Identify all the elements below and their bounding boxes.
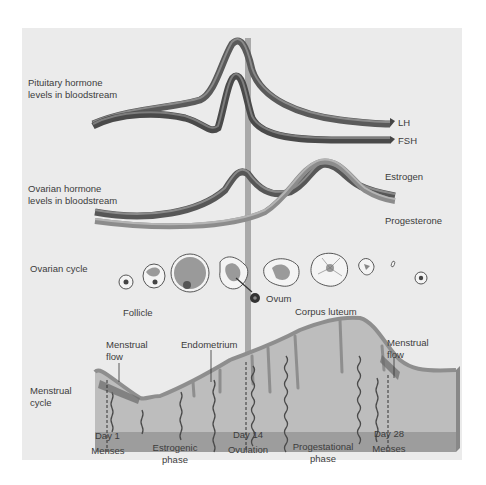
endometrium-label: Endometrium [181, 339, 238, 351]
menstrual-flow-right-line1: Menstrual [387, 337, 429, 349]
menstrual-flow-left-line2: flow [106, 351, 148, 363]
timeline-day1-line2: Menses [88, 445, 128, 457]
lh-label: LH [398, 117, 410, 129]
ovarian-hormone-label-line2: levels in bloodstream [28, 195, 117, 207]
progesterone-label: Progesterone [385, 215, 442, 227]
timeline-day28-line2: Menses [364, 443, 414, 455]
timeline-estrogenic-phase: Estrogenic phase [145, 442, 205, 465]
corpus-luteum-icon [311, 253, 348, 286]
timeline-day14-line2: Ovulation [218, 444, 278, 456]
menstrual-cycle-label-line1: Menstrual [30, 385, 72, 397]
menstrual-cycle-label-line2: cycle [30, 397, 72, 409]
ovarian-hormone-label-line1: Ovarian hormone [28, 183, 117, 195]
timeline-progestational-phase: Progestational phase [283, 441, 363, 464]
menstrual-cycle-illustration [0, 0, 486, 485]
ovum-icon [250, 293, 260, 303]
timeline-day1: Day 1 Menses [88, 430, 128, 456]
regressing-corpus-luteum-icon [359, 259, 374, 275]
early-corpus-luteum-icon [264, 259, 299, 287]
ovarian-cycle-label: Ovarian cycle [30, 263, 88, 275]
timeline-day28-line1: Day 28 [364, 428, 414, 440]
timeline-day1-line1: Day 1 [88, 430, 128, 442]
menstrual-flow-left-line1: Menstrual [106, 339, 148, 351]
pituitary-label-line1: Pituitary hormone [28, 77, 117, 89]
timeline-day14-line1: Day 14 [218, 429, 278, 441]
primary-follicle-icon [119, 275, 133, 289]
timeline-day14: Day 14 Ovulation [218, 429, 278, 455]
timeline-day28: Day 28 Menses [364, 428, 414, 454]
pituitary-label-line2: levels in bloodstream [28, 89, 117, 101]
corpus-albicans-icon [391, 261, 396, 268]
menstrual-cycle-label: Menstrual cycle [30, 385, 72, 408]
menstrual-flow-right-line2: flow [387, 349, 429, 361]
follicle-label: Follicle [123, 307, 153, 319]
timeline-estrogenic-line2: phase [145, 454, 205, 466]
next-follicle-icon [415, 272, 427, 284]
mature-follicle-icon [171, 254, 209, 292]
menstrual-flow-left-label: Menstrual flow [106, 339, 148, 362]
estrogen-label: Estrogen [385, 171, 423, 183]
secondary-follicle-icon [143, 264, 165, 288]
timeline-estrogenic-line1: Estrogenic [145, 442, 205, 454]
ovarian-hormone-label: Ovarian hormone levels in bloodstream [28, 183, 117, 206]
ovum-label: Ovum [266, 293, 291, 305]
timeline-progestational-line1: Progestational [283, 441, 363, 453]
corpus-luteum-label: Corpus luteum [295, 306, 357, 318]
menstrual-flow-right-label: Menstrual flow [387, 337, 429, 360]
fsh-label: FSH [398, 135, 417, 147]
timeline-progestational-line2: phase [283, 453, 363, 465]
pituitary-label: Pituitary hormone levels in bloodstream [28, 77, 117, 100]
